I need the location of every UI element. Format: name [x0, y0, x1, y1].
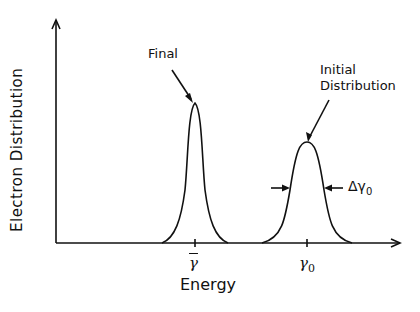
- final-annotation: Final: [148, 47, 178, 61]
- final-distribution-curve: [162, 103, 228, 243]
- delta-gamma-label: Δγ: [348, 178, 366, 194]
- width-arrowhead-right-icon: [324, 185, 332, 192]
- gamma0-label: γ: [299, 254, 308, 272]
- tick-label-gamma-bar: γ: [189, 254, 198, 272]
- delta-gamma-subscript: 0: [366, 186, 372, 197]
- initial-distribution-curve: [262, 142, 352, 243]
- gamma-bar-label: γ: [189, 254, 198, 272]
- y-axis-label: Electron Distribution: [8, 68, 26, 232]
- diagram-canvas: [0, 0, 420, 312]
- initial-annotation-line1: Initial: [320, 63, 356, 77]
- width-annotation: Δγ0: [348, 178, 372, 194]
- tick-label-gamma0: γ0: [299, 254, 315, 272]
- initial-annotation-line2: Distribution: [320, 79, 396, 93]
- x-axis-label: Energy: [180, 275, 236, 294]
- width-arrowhead-left-icon: [282, 185, 290, 192]
- gamma0-subscript: 0: [308, 262, 315, 275]
- final-arrowhead-icon: [185, 93, 193, 103]
- initial-leader-line: [309, 100, 329, 138]
